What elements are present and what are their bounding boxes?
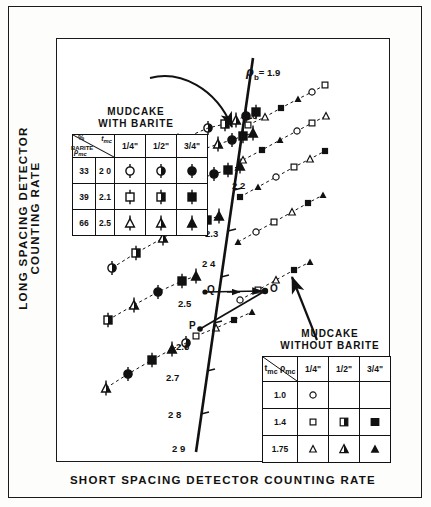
point-label-P: P (189, 320, 196, 331)
legend-barite-title-line1: MUDCAKE (72, 106, 200, 118)
legend-barite-header-row: tmc ρmc 1/4" 1/2" 3/4" (73, 135, 208, 158)
legend-barite-row-1: 39 2.1 (73, 184, 208, 210)
rho-symbol: ρ (246, 64, 254, 79)
legend-nobarite-title: MUDCAKE WITHOUT BARITE (262, 328, 398, 352)
legend-barite-sym-1-2 (177, 184, 208, 210)
legend-barite-rhomc: ρmc (74, 148, 87, 157)
legend-barite-pct-2: 66 (73, 210, 96, 236)
legend-nobarite-row-0: 1.0 (263, 382, 391, 409)
legend-nobarite-sym-2-0 (298, 436, 329, 463)
legend-nobarite-row-1: 1.4 (263, 409, 391, 436)
legend-nobarite-sym-0-2 (360, 382, 391, 409)
rho-value: = 1.9 (259, 67, 280, 78)
legend-nobarite-sym-1-1 (329, 409, 360, 436)
legend-nobarite-rho-0: 1.0 (263, 382, 298, 409)
legend-barite-title: MUDCAKE WITH BARITE (72, 106, 200, 130)
legend-nobarite-header-row: tmc ρmc 1/4" 1/2" 3/4" (263, 357, 391, 382)
legend-barite-col-1: 1/2" (146, 135, 177, 158)
spine-tick-label-2-0: 2 0 (244, 110, 257, 121)
spine-tick-label-2-2: 2 2 (232, 180, 245, 191)
legend-nobarite-sym-0-1 (329, 382, 360, 409)
legend-nobarite-col-0: 1/4" (298, 357, 329, 382)
point-label-O: O (270, 283, 278, 294)
spine-tick-label-2-8: 2 8 (168, 409, 181, 420)
spine-tick-label-2-9: 2 9 (172, 443, 185, 454)
legend-barite-rho-0: 2 0 (96, 158, 115, 184)
legend-barite-pct-1: 39 (73, 184, 96, 210)
legend-nobarite-col-1: 1/2" (329, 357, 360, 382)
legend-barite-col-0: 1/4" (115, 135, 146, 158)
legend-barite-row-0: 33 2 0 (73, 158, 208, 184)
spine-density-label: ρb= 1.9 (246, 64, 280, 82)
corner-diagonal-icon (263, 357, 297, 381)
point-label-Q: Q (207, 284, 215, 295)
legend-nobarite-sym-2-1 (329, 436, 360, 463)
legend-nobarite-corner-cell: tmc ρmc (263, 357, 298, 382)
legend-nobarite-sym-0-0 (298, 382, 329, 409)
legend-nobarite-title-line1: MUDCAKE (262, 328, 398, 340)
legend-barite-sym-0-0 (115, 158, 146, 184)
x-axis-label: SHORT SPACING DETECTOR COUNTING RATE (56, 474, 390, 486)
legend-nobarite-table: tmc ρmc 1/4" 1/2" 3/4" 1.0 1.4 1.75 (262, 356, 391, 463)
legend-barite-rho-1: 2.1 (96, 184, 115, 210)
legend-nobarite-sym-2-2 (360, 436, 391, 463)
spine-tick-label-2-6: 2.6 (176, 341, 189, 352)
legend-barite-table: tmc ρmc 1/4" 1/2" 3/4" 33 2 0 39 2.1 66 … (72, 134, 208, 236)
legend-barite-col-2: 3/4" (177, 135, 208, 158)
legend-nobarite-rho-2: 1.75 (263, 436, 298, 463)
legend-barite-tmc: tmc (101, 135, 112, 144)
legend-nobarite-sym-1-0 (298, 409, 329, 436)
legend-barite-sym-0-2 (177, 158, 208, 184)
legend-barite-row-2: 66 2.5 (73, 210, 208, 236)
legend-barite-sym-1-0 (115, 184, 146, 210)
legend-barite-sym-0-1 (146, 158, 177, 184)
figure-root: LONG SPACING DETECTOR COUNTING RATE SHOR… (0, 0, 431, 507)
legend-nobarite-sym-1-2 (360, 409, 391, 436)
legend-barite-sym-2-0 (115, 210, 146, 236)
legend-barite-corner-cell: tmc ρmc (73, 135, 115, 158)
legend-barite-pct-0: 33 (73, 158, 96, 184)
legend-nobarite-col-2: 3/4" (360, 357, 391, 382)
legend-barite-title-line2: WITH BARITE (72, 118, 200, 130)
legend-barite-sym-2-2 (177, 210, 208, 236)
spine-tick-label-2-5: 2.5 (178, 298, 191, 309)
legend-nobarite-row-2: 1.75 (263, 436, 391, 463)
spine-tick-label-2-7: 2.7 (166, 372, 179, 383)
legend-nobarite-title-line2: WITHOUT BARITE (262, 340, 398, 352)
legend-barite-sym-1-1 (146, 184, 177, 210)
y-axis-label: LONG SPACING DETECTOR COUNTING RATE (17, 93, 41, 343)
spine-tick-label-2-4: 2 4 (202, 258, 215, 269)
legend-barite-rho-2: 2.5 (96, 210, 115, 236)
legend-nobarite-rho-1: 1.4 (263, 409, 298, 436)
legend-barite-sym-2-1 (146, 210, 177, 236)
